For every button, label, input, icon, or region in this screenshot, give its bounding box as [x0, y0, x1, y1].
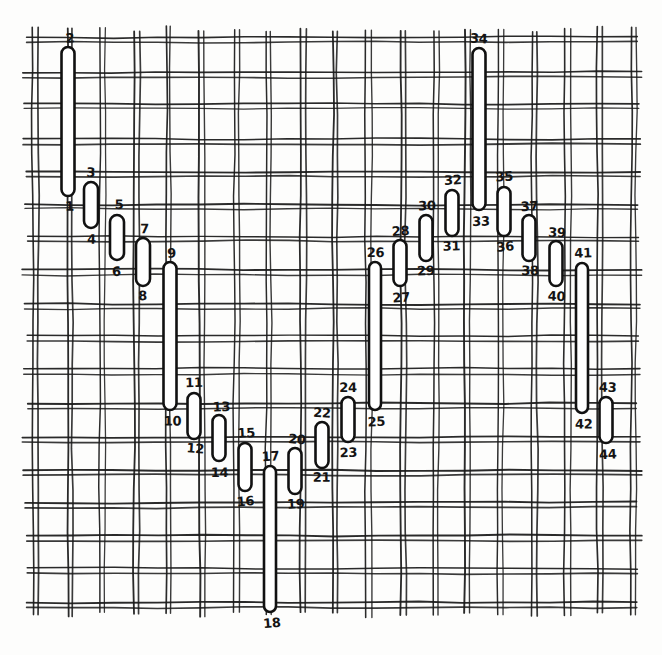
mesh-marker-oval[interactable] — [164, 262, 177, 410]
mesh-strand — [26, 171, 640, 172]
marker-bottom-label: 16 — [236, 493, 255, 509]
marker-bottom-label: 44 — [599, 446, 617, 462]
marker-bottom-label: 31 — [442, 238, 460, 253]
marker-bottom-label: 40 — [547, 288, 566, 304]
mesh-marker-oval[interactable] — [316, 422, 329, 468]
marker-top-label: 35 — [495, 168, 514, 184]
marker-bottom-label: 23 — [339, 445, 357, 460]
marker-top-label: 34 — [470, 31, 489, 47]
mesh-marker-oval[interactable] — [110, 215, 124, 260]
mesh-marker-oval[interactable] — [498, 187, 511, 236]
marker-bottom-label: 19 — [287, 496, 306, 512]
marker-bottom-label: 38 — [521, 263, 539, 278]
marker-top-label: 26 — [367, 245, 385, 260]
marker-top-label: 13 — [212, 399, 230, 415]
mesh-marker-oval[interactable] — [62, 47, 75, 196]
marker-top-label: 32 — [444, 172, 462, 188]
mesh-marker-oval[interactable] — [420, 215, 433, 261]
mesh-marker-oval[interactable] — [523, 215, 536, 261]
marker-top-label: 22 — [313, 405, 331, 421]
mesh-marker-oval[interactable] — [550, 241, 563, 286]
marker-top-label: 17 — [261, 448, 280, 464]
marker-bottom-label: 12 — [186, 440, 205, 456]
marker-top-label: 28 — [391, 223, 410, 239]
mesh-marker-oval[interactable] — [600, 397, 613, 443]
marker-top-label: 24 — [339, 380, 357, 395]
marker-bottom-label: 6 — [112, 264, 122, 280]
marker-top-label: 3 — [86, 165, 96, 180]
marker-bottom-label: 4 — [87, 232, 96, 247]
marker-top-label: 43 — [599, 379, 617, 395]
marker-bottom-label: 29 — [417, 263, 435, 279]
marker-bottom-label: 18 — [262, 615, 281, 631]
mesh-marker-oval[interactable] — [188, 393, 201, 439]
marker-top-label: 41 — [574, 245, 592, 261]
marker-top-label: 5 — [115, 197, 124, 212]
marker-bottom-label: 8 — [138, 288, 147, 303]
mesh-marker-oval[interactable] — [213, 415, 226, 461]
marker-top-label: 30 — [418, 198, 436, 213]
marker-bottom-label: 36 — [496, 238, 515, 254]
mesh-marker-oval[interactable] — [394, 240, 407, 286]
marker-bottom-label: 10 — [164, 414, 182, 429]
mesh-marker-oval[interactable] — [369, 262, 381, 410]
marker-bottom-label: 27 — [392, 289, 411, 305]
marker-bottom-label: 21 — [313, 470, 331, 485]
mesh-marker-oval[interactable] — [136, 238, 150, 286]
marker-bottom-label: 42 — [575, 416, 593, 431]
marker-top-label: 39 — [548, 225, 566, 241]
marker-top-label: 37 — [520, 198, 539, 214]
marker-top-label: 11 — [185, 375, 203, 390]
marker-bottom-label: 14 — [211, 465, 229, 480]
marker-bottom-label: 1 — [65, 199, 74, 214]
marker-top-label: 2 — [65, 30, 75, 46]
mesh-marker-oval[interactable] — [446, 190, 459, 236]
mesh-marker-oval[interactable] — [239, 443, 252, 491]
mesh-marker-oval[interactable] — [289, 448, 302, 494]
mesh-marker-oval[interactable] — [84, 182, 98, 228]
marker-bottom-label: 25 — [367, 414, 385, 430]
mesh-svg-canvas: 2134567891011121314151617182019222124232… — [0, 0, 662, 655]
mesh-marker-oval[interactable] — [264, 466, 276, 612]
marker-top-label: 15 — [237, 425, 256, 441]
marker-top-label: 20 — [288, 431, 307, 447]
mesh-marker-oval[interactable] — [576, 263, 588, 413]
mesh-figure: 2134567891011121314151617182019222124232… — [0, 0, 662, 655]
marker-bottom-label: 33 — [472, 214, 490, 229]
mesh-marker-oval[interactable] — [473, 48, 486, 210]
marker-top-label: 7 — [140, 221, 149, 236]
marker-top-label: 9 — [167, 246, 176, 261]
mesh-marker-oval[interactable] — [342, 397, 355, 442]
